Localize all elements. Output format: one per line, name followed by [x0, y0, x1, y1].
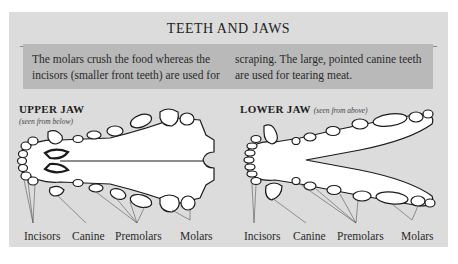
upper-label-molars: Molars [180, 230, 213, 242]
upper-jaw-illustration [18, 109, 215, 212]
jaw-diagrams [0, 0, 458, 264]
lower-label-premolars: Premolars [337, 230, 384, 242]
lower-label-molars: Molars [401, 230, 434, 242]
upper-label-canine: Canine [72, 230, 105, 242]
upper-label-incisors: Incisors [24, 230, 60, 242]
lower-label-incisors: Incisors [244, 230, 280, 242]
lower-label-canine: Canine [293, 230, 326, 242]
upper-label-premolars: Premolars [115, 230, 162, 242]
lower-jaw-illustration [244, 110, 435, 207]
